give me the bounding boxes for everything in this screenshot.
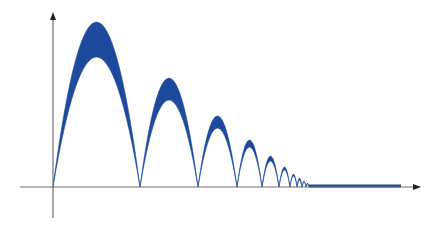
arch-band-3 [198, 116, 237, 187]
y-axis-arrow-icon [50, 12, 56, 20]
arch-band-2 [140, 78, 198, 187]
arch-band-6 [279, 167, 290, 187]
x-axis-arrow-icon [413, 184, 421, 190]
arch-band-1 [53, 22, 140, 187]
arch-band-5 [262, 156, 279, 187]
arch-band-7 [290, 174, 297, 187]
arch-bands [53, 22, 309, 187]
arch-band-8 [297, 178, 302, 187]
bouncing-arches-diagram [0, 0, 443, 229]
arch-band-9 [302, 181, 306, 187]
axes [20, 12, 421, 218]
arch-band-4 [237, 140, 262, 187]
diagram-canvas [0, 0, 443, 229]
